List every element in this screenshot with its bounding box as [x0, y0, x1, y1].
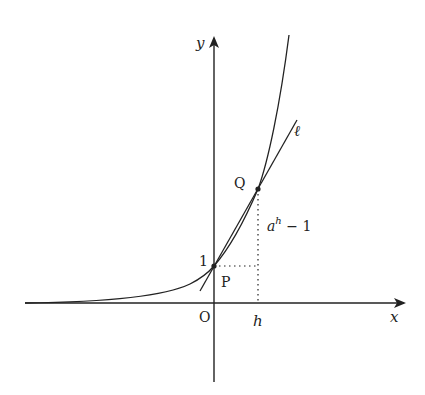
point-q-label: Q [234, 175, 245, 191]
exponential-tangent-diagram: y x O 1 P Q h ℓ ah − 1 [0, 0, 425, 395]
diagram-canvas: y x O 1 P Q h ℓ ah − 1 [0, 0, 425, 395]
x-axis-label: x [390, 308, 399, 326]
point-p-dot [211, 263, 216, 268]
point-q-dot [255, 186, 260, 191]
increment-tail: − 1 [282, 218, 312, 234]
point-p-label: P [221, 274, 230, 290]
origin-label: O [199, 309, 210, 325]
y-axis-label: y [195, 34, 205, 52]
increment-label: ah − 1 [267, 215, 311, 234]
increment-base: a [267, 218, 275, 234]
value-one-label: 1 [199, 253, 208, 269]
line-l-label: ℓ [294, 122, 300, 140]
h-label: h [253, 312, 263, 330]
exponential-curve [25, 35, 289, 303]
